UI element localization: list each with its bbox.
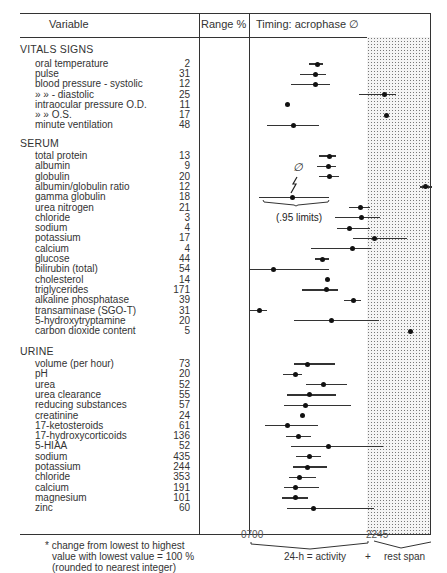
acrophase-dot: [408, 329, 413, 334]
row-range-value: 31: [150, 306, 190, 316]
acrophase-dot: [285, 423, 290, 428]
section-serum: SERUM: [20, 137, 59, 149]
acrophase-dot: [307, 392, 312, 397]
confidence-interval-bar: [291, 446, 383, 447]
row-label: creatinine: [35, 411, 78, 421]
row-label: urea nitrogen: [35, 203, 94, 213]
confidence-interval-bar: [311, 248, 371, 249]
confidence-interval-bar: [353, 238, 407, 239]
acrophase-dot: [297, 475, 302, 480]
row-label: reducing substances: [35, 400, 127, 410]
acrophase-dot: [285, 102, 290, 107]
acrophase-dot: [293, 485, 298, 490]
confidence-interval-bar: [294, 320, 379, 321]
confidence-interval-bar: [302, 289, 338, 290]
limits-brace-icon: [262, 199, 330, 207]
acrophase-dot: [320, 257, 325, 262]
row-label: potassium: [35, 233, 81, 243]
row-range-value: 54: [150, 264, 190, 274]
confidence-interval-bar: [284, 405, 351, 406]
acrophase-dot: [291, 123, 296, 128]
row-range-value: 353: [150, 472, 190, 482]
acrophase-dot: [321, 382, 326, 387]
section-urine: URINE: [20, 345, 54, 357]
acrophase-dot: [293, 495, 298, 500]
row-range-value: 5: [150, 326, 190, 336]
right-border: [430, 13, 431, 534]
header-variable: Variable: [49, 18, 89, 30]
confidence-interval-bar: [337, 228, 370, 229]
acrophase-dot: [327, 174, 332, 179]
axis-activity-label: 24-h = activity: [284, 551, 346, 562]
row-range-value: 24: [150, 411, 190, 421]
confidence-interval-bar: [306, 384, 347, 385]
acrophase-dot: [257, 308, 262, 313]
acrophase-dot: [293, 372, 298, 377]
row-label: carbon dioxide content: [35, 326, 136, 336]
row-range-value: 18: [150, 192, 190, 202]
row-range-value: 48: [150, 120, 190, 130]
acrophase-dot: [326, 444, 331, 449]
row-label: 5-HIAA: [35, 441, 67, 451]
axis-tick-0700: 0700: [241, 529, 263, 540]
acrophase-dot: [326, 164, 331, 169]
acrophase-dot: [329, 318, 334, 323]
acrophase-dot: [311, 506, 316, 511]
acrophase-dot: [324, 287, 329, 292]
acrophase-dot: [307, 454, 312, 459]
row-label: zinc: [35, 503, 53, 513]
row-range-value: 21: [150, 203, 190, 213]
row-range-value: 57: [150, 400, 190, 410]
row-label: chloride: [35, 472, 70, 482]
top-border: [20, 13, 431, 14]
axis-rest-label: rest span: [384, 551, 425, 562]
row-range-value: 52: [150, 441, 190, 451]
confidence-interval-bar: [289, 477, 316, 478]
section-vitals: VITALS SIGNS: [20, 43, 93, 55]
acrophase-dot: [327, 154, 332, 159]
range-column-divider-left: [199, 13, 200, 534]
row-range-value: 20: [150, 369, 190, 379]
row-label: blood pressure - systolic: [35, 79, 143, 89]
acrophase-dot: [325, 277, 330, 282]
acrophase-dot: [305, 465, 310, 470]
row-label: pH: [35, 369, 48, 379]
row-label: bilirubin (total): [35, 264, 98, 274]
row-range-value: 17: [150, 233, 190, 243]
rest-span-shaded-region: [367, 37, 430, 534]
header-range: Range %: [201, 18, 246, 30]
acrophase-dot: [313, 82, 318, 87]
row-label: albumin: [35, 161, 70, 171]
acrophase-dot: [303, 403, 308, 408]
acrophase-dot: [313, 72, 318, 77]
confidence-interval-bar: [294, 363, 335, 364]
row-range-value: 60: [150, 503, 190, 513]
acrophase-dot: [350, 246, 355, 251]
acrophase-dot: [296, 434, 301, 439]
acrophase-dot: [351, 298, 356, 303]
axis-tick-2245: 2245: [366, 529, 388, 540]
confidence-interval-bar: [287, 394, 336, 395]
acrophase-dot: [305, 362, 310, 367]
confidence-interval-bar: [291, 84, 330, 85]
lightning-arrow-icon: [288, 176, 300, 196]
acrophase-dot: [423, 184, 428, 189]
header-timing: Timing: acrophase ∅: [256, 18, 359, 31]
confidence-interval-bar: [335, 217, 380, 218]
acrophase-dot: [271, 267, 276, 272]
confidence-interval-bar: [287, 508, 374, 509]
axis-plus-sign: +: [365, 551, 371, 562]
footnote-line-2: value with lowest value = 100 %: [52, 551, 194, 562]
limits-label: (.95 limits): [276, 212, 322, 223]
confidence-interval-bar: [293, 466, 327, 467]
row-range-value: 39: [150, 295, 190, 305]
footnote-line-1: * change from lowest to highest: [45, 540, 185, 551]
acrophase-dot: [300, 413, 305, 418]
acrophase-dot: [315, 62, 320, 67]
acrophase-dot: [384, 113, 389, 118]
acrophase-dot: [372, 236, 377, 241]
range-column-divider-right: [249, 13, 250, 534]
confidence-interval-bar: [265, 425, 318, 426]
row-range-value: 12: [150, 79, 190, 89]
acrophase-dot: [359, 215, 364, 220]
